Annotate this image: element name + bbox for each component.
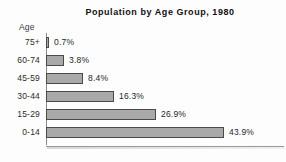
bar-value-label: 3.8% — [69, 55, 89, 65]
category-label: 30-44 — [0, 91, 40, 101]
chart-title: Population by Age Group, 1980 — [0, 7, 286, 17]
category-label: 75+ — [0, 37, 40, 47]
bar-30-44 — [46, 91, 114, 102]
bar-value-label: 8.4% — [88, 73, 108, 83]
bar-value-label: 16.3% — [119, 91, 144, 101]
bar-75-plus — [46, 37, 49, 48]
category-label: 15-29 — [0, 109, 40, 119]
bar-row: 45-59 8.4% — [0, 69, 286, 87]
bar-value-label: 26.9% — [161, 109, 186, 119]
bar-row: 75+ 0.7% — [0, 33, 286, 51]
bar-15-29 — [46, 109, 156, 120]
bar-value-label: 0.7% — [54, 37, 74, 47]
bar-60-74 — [46, 55, 64, 66]
plot-area: 75+ 0.7% 60-74 3.8% 45-59 8.4% 30-44 16.… — [0, 33, 286, 145]
category-axis-label: Age — [19, 22, 35, 32]
bar-0-14 — [46, 127, 224, 138]
bar-row: 60-74 3.8% — [0, 51, 286, 69]
bar-value-label: 43.9% — [229, 127, 254, 137]
bar-row: 0-14 43.9% — [0, 123, 286, 141]
category-label: 60-74 — [0, 55, 40, 65]
bar-row: 30-44 16.3% — [0, 87, 286, 105]
category-label: 0-14 — [0, 127, 40, 137]
category-label: 45-59 — [0, 73, 40, 83]
bar-45-59 — [46, 73, 83, 84]
bar-chart-figure: Population by Age Group, 1980 Age 75+ 0.… — [0, 0, 286, 162]
bar-row: 15-29 26.9% — [0, 105, 286, 123]
baseline-shadow — [47, 147, 285, 149]
